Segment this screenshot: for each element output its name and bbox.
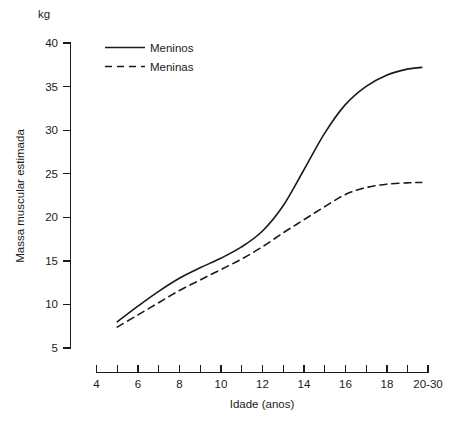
x-tick-label-18: 18	[381, 378, 394, 390]
y-tick-label-20: 20	[45, 211, 58, 223]
x-tick-label-12: 12	[256, 378, 269, 390]
muscle-mass-line-chart: kg 40 35 30 25 20 15 10 5 Massa muscular…	[0, 0, 455, 422]
x-tick-label-4: 4	[93, 378, 100, 390]
x-tick-label-20-30: 20-30	[413, 378, 442, 390]
x-tick-label-16: 16	[339, 378, 352, 390]
y-tick-label-35: 35	[45, 81, 58, 93]
x-axis-tick-labels: 4 6 8 10 12 14 16 18 20-30	[93, 378, 442, 390]
y-axis-ticks	[63, 43, 71, 348]
y-tick-label-5: 5	[52, 342, 58, 354]
chart-container: kg 40 35 30 25 20 15 10 5 Massa muscular…	[0, 0, 455, 422]
series-line-meninas	[117, 182, 422, 327]
y-tick-label-15: 15	[45, 255, 58, 267]
y-axis-tick-labels: 40 35 30 25 20 15 10 5	[45, 37, 58, 354]
y-tick-label-25: 25	[45, 168, 58, 180]
y-tick-label-30: 30	[45, 124, 58, 136]
x-axis-title: Idade (anos)	[230, 398, 295, 410]
legend-label-meninas: Meninas	[150, 61, 194, 73]
x-tick-label-8: 8	[176, 378, 182, 390]
chart-legend: Meninos Meninas	[105, 42, 194, 73]
x-tick-label-10: 10	[215, 378, 228, 390]
x-tick-label-6: 6	[135, 378, 141, 390]
series-line-meninos	[117, 67, 422, 321]
legend-label-meninos: Meninos	[150, 42, 194, 54]
y-tick-label-10: 10	[45, 298, 58, 310]
y-axis-title: Massa muscular estimada	[14, 129, 26, 263]
x-tick-label-14: 14	[298, 378, 311, 390]
x-axis-ticks	[97, 365, 429, 373]
y-tick-label-40: 40	[45, 37, 58, 49]
y-axis-unit-label: kg	[38, 8, 50, 20]
